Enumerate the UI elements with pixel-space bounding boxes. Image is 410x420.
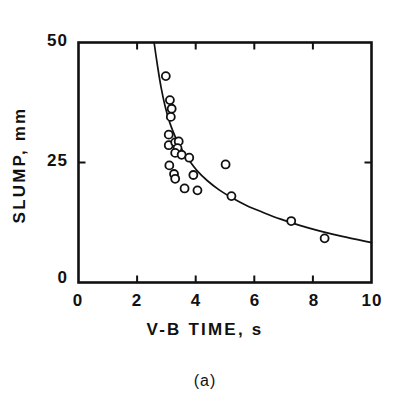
figure-caption: (a): [0, 372, 410, 390]
x-axis-title: V-B TIME, s: [0, 320, 410, 340]
x-tick-label-8: 8: [294, 291, 334, 311]
data-points: [162, 72, 329, 242]
y-tick-label-50: 50: [22, 31, 68, 51]
figure-panel: SLUMP, mm 50 25 0 0 2 4 6 8 10 V-B TIME,…: [0, 0, 410, 420]
x-tick-label-2: 2: [117, 291, 157, 311]
plot-canvas: [0, 0, 410, 420]
x-tick-label-10: 10: [352, 291, 392, 311]
fitted-curve: [154, 43, 371, 243]
x-tick-label-0: 0: [58, 291, 98, 311]
y-tick-label-25: 25: [22, 151, 68, 171]
x-tick-label-4: 4: [176, 291, 216, 311]
x-tick-label-6: 6: [235, 291, 275, 311]
y-tick-label-0: 0: [22, 268, 68, 288]
